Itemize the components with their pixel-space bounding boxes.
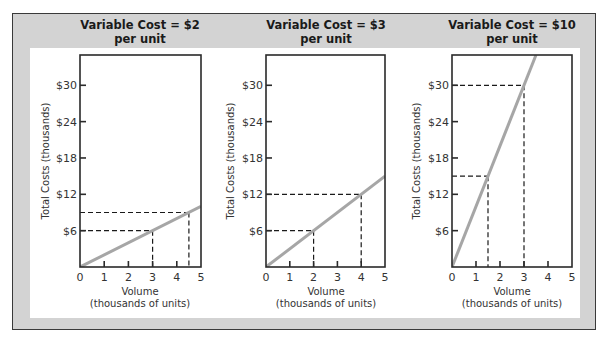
- x-axis-label-line2: (thousands of units): [462, 298, 562, 309]
- x-tick-label: 1: [473, 271, 480, 284]
- chart-variable-cost-3: Variable Cost = $3 per unit Total Costs …: [225, 18, 389, 309]
- chart-title-line1: Variable Cost = $2: [80, 18, 200, 32]
- x-tick-label: 3: [521, 271, 528, 284]
- x-tick-label: 2: [125, 271, 132, 284]
- x-tick-label: 0: [449, 271, 456, 284]
- chart-title-line1: Variable Cost = $10: [448, 18, 576, 32]
- y-tick-label: $6: [435, 225, 449, 238]
- y-tick-label: $18: [428, 152, 449, 165]
- x-axis-label-line2: (thousands of units): [276, 298, 376, 309]
- x-tick-label: 5: [382, 271, 389, 284]
- y-tick-label: $24: [428, 116, 449, 129]
- x-axis-label-line1: Volume: [493, 286, 530, 297]
- x-tick-label: 4: [358, 271, 365, 284]
- total-cost-line: [266, 176, 385, 267]
- plot-area: $6$12$18$24$30012345: [56, 55, 205, 284]
- y-axis-label: Total Costs (thousands): [225, 102, 236, 220]
- x-tick-label: 5: [569, 271, 576, 284]
- y-tick-label: $30: [56, 79, 77, 92]
- plot-area: $6$12$18$24$30012345: [428, 55, 576, 284]
- y-tick-label: $6: [63, 225, 77, 238]
- plot-frame: [452, 55, 572, 267]
- x-tick-label: 4: [173, 271, 180, 284]
- y-tick-label: $12: [428, 188, 449, 201]
- plot-frame: [266, 55, 385, 267]
- x-axis-label-line1: Volume: [307, 286, 344, 297]
- total-cost-line: [80, 206, 201, 267]
- x-tick-label: 1: [286, 271, 293, 284]
- y-tick-label: $30: [428, 79, 449, 92]
- x-tick-label: 3: [334, 271, 341, 284]
- x-tick-label: 0: [77, 271, 84, 284]
- y-tick-label: $24: [56, 116, 77, 129]
- chart-title-line2: per unit: [486, 32, 538, 46]
- x-tick-label: 3: [149, 271, 156, 284]
- y-tick-label: $30: [242, 79, 263, 92]
- y-tick-label: $24: [242, 116, 263, 129]
- y-tick-label: $6: [249, 225, 263, 238]
- x-tick-label: 5: [198, 271, 205, 284]
- x-tick-label: 2: [310, 271, 317, 284]
- plot-area: $6$12$18$24$30012345: [242, 55, 389, 284]
- y-tick-label: $18: [242, 152, 263, 165]
- y-tick-label: $12: [242, 188, 263, 201]
- x-tick-label: 2: [497, 271, 504, 284]
- charts-svg: Variable Cost = $2 per unit Total Costs …: [0, 0, 605, 343]
- x-axis-label-line1: Volume: [121, 286, 158, 297]
- x-tick-label: 4: [545, 271, 552, 284]
- y-tick-label: $12: [56, 188, 77, 201]
- x-axis-label-line2: (thousands of units): [90, 298, 190, 309]
- x-tick-label: 0: [263, 271, 270, 284]
- y-tick-label: $18: [56, 152, 77, 165]
- x-tick-label: 1: [101, 271, 108, 284]
- chart-variable-cost-10: Variable Cost = $10 per unit Total Costs…: [411, 18, 576, 309]
- chart-title-line1: Variable Cost = $3: [266, 18, 386, 32]
- y-axis-label: Total Costs (thousands): [411, 102, 422, 220]
- chart-title-line2: per unit: [114, 32, 166, 46]
- chart-variable-cost-2: Variable Cost = $2 per unit Total Costs …: [40, 18, 205, 309]
- y-axis-label: Total Costs (thousands): [40, 102, 51, 220]
- chart-title-line2: per unit: [300, 32, 352, 46]
